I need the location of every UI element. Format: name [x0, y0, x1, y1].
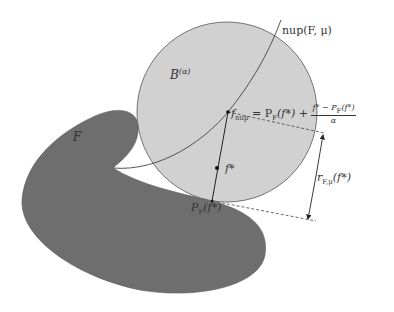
label-nup-curve: nup(F, μ) [282, 25, 332, 36]
point-f-star [215, 166, 219, 170]
label-projection: PF(f*) [191, 202, 221, 216]
point-f-nup [226, 110, 230, 114]
label-set-f: F [73, 131, 81, 143]
label-ball: B(α) [170, 68, 190, 81]
diagram-canvas [0, 0, 394, 312]
label-f-star: f* [225, 163, 235, 174]
label-f-nup-formula: fnup = PF(f*) + f* − PF(f*) α [231, 104, 356, 125]
radius-arrow [316, 135, 323, 176]
fraction: f* − PF(f*) α [311, 104, 355, 125]
label-radius: rF,μ(f*) [317, 172, 351, 186]
radius-arrow-lower [308, 176, 316, 219]
